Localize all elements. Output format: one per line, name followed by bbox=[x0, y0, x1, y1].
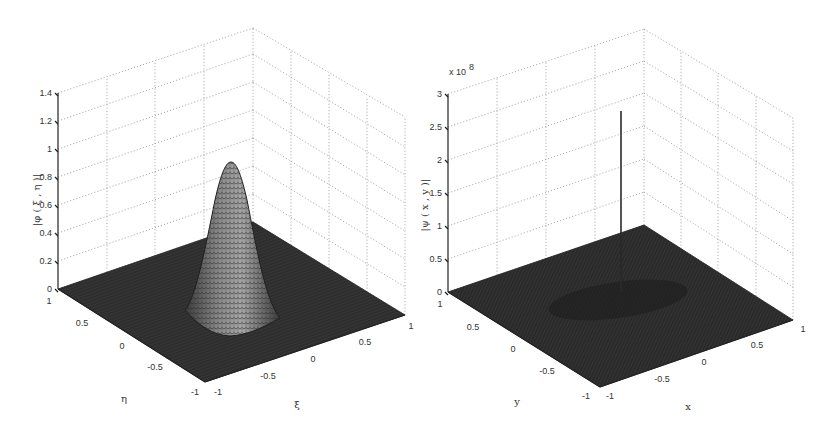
svg-text:-1: -1 bbox=[606, 391, 614, 401]
left-z-ticks: 0 0.2 0.4 0.6 0.8 1 1.2 1.4 bbox=[39, 88, 58, 294]
svg-text:0: 0 bbox=[437, 287, 442, 297]
right-z-ticks: 0 0.5 1 1.5 2 2.5 3 bbox=[429, 89, 448, 297]
svg-text:0.5: 0.5 bbox=[359, 337, 372, 347]
svg-text:-0.5: -0.5 bbox=[539, 366, 555, 376]
figure: 0 0.2 0.4 0.6 0.8 1 1.2 1.4 |φ ( ξ , η )… bbox=[0, 0, 833, 431]
left-z-label: |φ ( ξ , η )| bbox=[31, 174, 43, 226]
svg-text:1: 1 bbox=[46, 296, 51, 306]
svg-text:x 10: x 10 bbox=[449, 67, 466, 77]
svg-text:0.2: 0.2 bbox=[39, 256, 52, 266]
svg-text:0: 0 bbox=[701, 357, 706, 367]
svg-text:0: 0 bbox=[119, 341, 124, 351]
svg-text:0.5: 0.5 bbox=[429, 254, 442, 264]
right-z-multiplier: x 10 8 bbox=[449, 62, 474, 77]
svg-text:1: 1 bbox=[408, 321, 413, 331]
svg-text:-1: -1 bbox=[214, 387, 222, 397]
svg-text:-0.5: -0.5 bbox=[260, 371, 276, 381]
svg-text:1: 1 bbox=[800, 324, 805, 334]
svg-text:1.2: 1.2 bbox=[39, 116, 52, 126]
svg-text:-0.5: -0.5 bbox=[147, 362, 163, 372]
svg-text:-1: -1 bbox=[191, 387, 199, 397]
svg-text:-1: -1 bbox=[582, 391, 590, 401]
svg-text:0.4: 0.4 bbox=[39, 228, 52, 238]
svg-text:1.4: 1.4 bbox=[39, 88, 52, 98]
right-x-label: x bbox=[685, 401, 691, 412]
left-xi-label: ξ bbox=[294, 399, 300, 410]
svg-text:1.5: 1.5 bbox=[429, 188, 442, 198]
svg-text:3: 3 bbox=[437, 89, 442, 99]
svg-text:0: 0 bbox=[47, 284, 52, 294]
svg-text:2.5: 2.5 bbox=[429, 122, 442, 132]
svg-text:1: 1 bbox=[437, 221, 442, 231]
svg-text:0.5: 0.5 bbox=[751, 340, 764, 350]
svg-text:1: 1 bbox=[47, 144, 52, 154]
svg-text:8: 8 bbox=[469, 62, 474, 72]
svg-text:1: 1 bbox=[437, 299, 442, 309]
svg-text:-0.5: -0.5 bbox=[654, 374, 670, 384]
svg-text:0: 0 bbox=[510, 344, 515, 354]
svg-text:0.5: 0.5 bbox=[467, 322, 480, 332]
right-surface-plot: 0 0.5 1 1.5 2 2.5 3 x 10 8 |ψ ( x , y )|… bbox=[419, 29, 806, 412]
svg-text:0.5: 0.5 bbox=[76, 318, 89, 328]
svg-text:0: 0 bbox=[310, 354, 315, 364]
right-y-label: y bbox=[513, 396, 520, 407]
left-eta-label: η bbox=[121, 393, 127, 404]
right-z-label: |ψ ( x , y )| bbox=[419, 179, 431, 232]
left-surface-plot: 0 0.2 0.4 0.6 0.8 1 1.2 1.4 |φ ( ξ , η )… bbox=[31, 28, 414, 410]
svg-text:2: 2 bbox=[437, 155, 442, 165]
